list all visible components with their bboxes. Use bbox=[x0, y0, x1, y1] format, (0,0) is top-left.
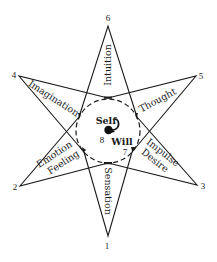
point-number-4: 4 bbox=[12, 70, 17, 80]
label-thought: Thought bbox=[137, 86, 178, 115]
psychosynthesis-star-diagram: 6 4 5 2 3 1 Intuition Sensation Imaginat… bbox=[0, 0, 217, 262]
star-diagram-canvas: 6 4 5 2 3 1 Intuition Sensation Imaginat… bbox=[0, 0, 217, 262]
point-number-6: 6 bbox=[106, 13, 111, 23]
label-self-number: 8 bbox=[100, 135, 105, 145]
junction-mark-top bbox=[104, 97, 112, 99]
label-sensation: Sensation bbox=[103, 167, 114, 214]
point-number-5: 5 bbox=[199, 71, 204, 81]
label-self: Self bbox=[96, 115, 118, 126]
junction-mark-bottom bbox=[104, 162, 112, 164]
point-number-1: 1 bbox=[105, 241, 110, 251]
label-will-number: 7 bbox=[123, 147, 128, 157]
label-intuition: Intuition bbox=[102, 44, 113, 86]
point-number-3: 3 bbox=[201, 181, 206, 191]
label-will: Will bbox=[110, 136, 133, 147]
point-number-2: 2 bbox=[13, 182, 18, 192]
label-imagination: Imagination bbox=[27, 78, 82, 119]
